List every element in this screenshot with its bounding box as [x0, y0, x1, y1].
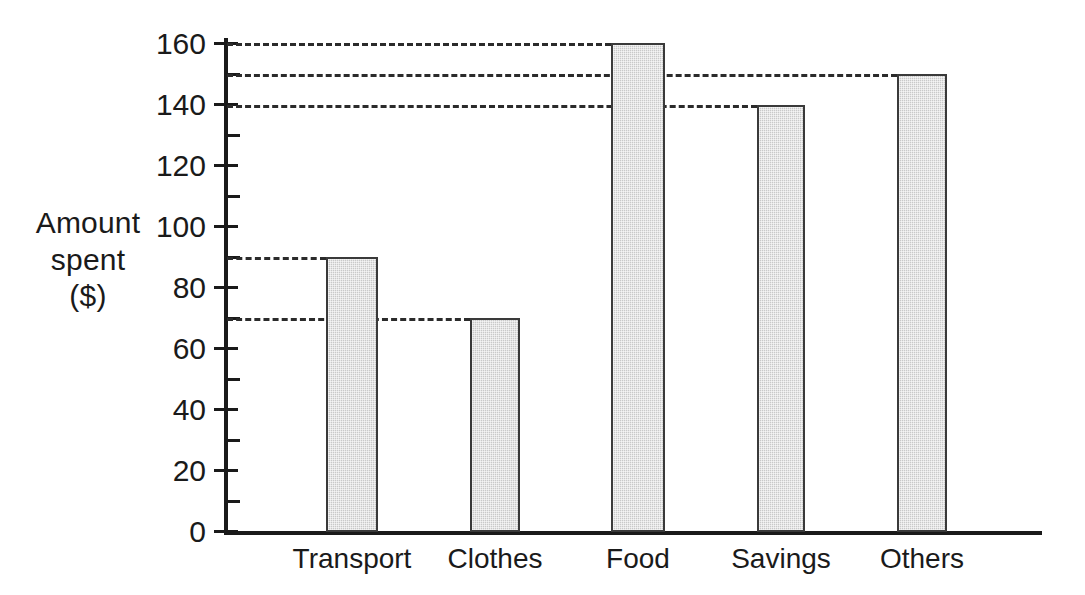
x-tick-label-clothes: Clothes [415, 545, 575, 573]
bar-food [611, 43, 665, 532]
x-tick-label-food: Food [568, 545, 708, 573]
y-tick-major-100 [214, 225, 238, 228]
gridline-160-food [227, 43, 611, 46]
y-tick-label-40: 40 [110, 395, 206, 425]
y-tick-major-80 [214, 286, 238, 289]
y-tick-minor-10 [226, 500, 240, 503]
y-tick-label-80: 80 [110, 273, 206, 303]
y-tick-minor-50 [226, 378, 240, 381]
x-tick-label-others: Others [847, 545, 997, 573]
bar-clothes [470, 318, 520, 532]
y-tick-major-60 [214, 347, 238, 350]
y-tick-minor-30 [226, 439, 240, 442]
y-tick-label-20: 20 [110, 456, 206, 486]
y-tick-label-100: 100 [110, 212, 206, 242]
gridline-90-transport [227, 257, 326, 260]
gridline-140-savings [227, 105, 757, 108]
y-tick-major-120 [214, 164, 238, 167]
bar-savings [757, 105, 805, 532]
y-tick-label-140: 140 [110, 90, 206, 120]
y-tick-major-20 [214, 469, 238, 472]
gridline-150-others [227, 74, 897, 77]
bar-chart: Amount spent ($) 0 20 40 60 80 100 120 1… [0, 0, 1085, 595]
y-tick-major-40 [214, 408, 238, 411]
y-tick-label-60: 60 [110, 334, 206, 364]
y-tick-label-0: 0 [110, 517, 206, 547]
bar-transport [326, 257, 378, 532]
bar-others [897, 74, 947, 532]
x-tick-label-savings: Savings [701, 545, 861, 573]
y-tick-label-160: 160 [110, 29, 206, 59]
y-tick-major-0 [214, 530, 238, 533]
y-tick-minor-130 [226, 134, 240, 137]
y-tick-label-120: 120 [110, 151, 206, 181]
y-tick-minor-110 [226, 195, 240, 198]
